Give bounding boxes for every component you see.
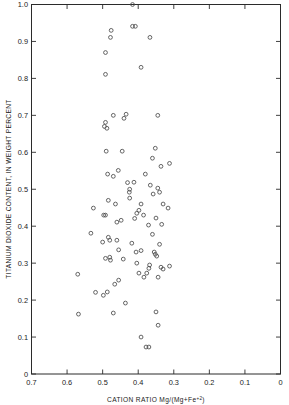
scatter-plot-figure: 0.70.60.50.40.30.20.10 00.10.20.30.40.50… bbox=[0, 0, 289, 405]
y-tick-label: 0.7 bbox=[18, 111, 28, 120]
x-tick-label: 0.5 bbox=[98, 378, 108, 387]
x-tick-label: 0.7 bbox=[26, 378, 36, 387]
x-axis-title: CATION RATIO Mg/(Mg+Fe+2) bbox=[107, 396, 205, 404]
x-tick-label: 0.6 bbox=[62, 378, 72, 387]
y-tick-label: 1.0 bbox=[18, 0, 28, 9]
chart-canvas: 0.70.60.50.40.30.20.10 00.10.20.30.40.50… bbox=[0, 0, 289, 405]
x-tick-label: 0.3 bbox=[169, 378, 179, 387]
x-tick-label: 0.1 bbox=[240, 378, 250, 387]
y-tick-label: 0.9 bbox=[18, 37, 28, 46]
y-tick-label: 0.4 bbox=[18, 222, 28, 231]
y-tick-label: 0.8 bbox=[18, 74, 28, 83]
y-tick-label: 0 bbox=[24, 370, 28, 379]
y-tick-label: 0.1 bbox=[18, 333, 28, 342]
y-tick-label: 0.6 bbox=[18, 148, 28, 157]
x-tick-label: 0.4 bbox=[133, 378, 143, 387]
y-axis-title: TITANIUM DIOXIDE CONTENT, IN WEIGHT PERC… bbox=[5, 99, 12, 278]
chart-background bbox=[0, 0, 289, 405]
x-tick-label: 0 bbox=[278, 378, 282, 387]
y-tick-label: 0.5 bbox=[18, 185, 28, 194]
x-tick-label: 0.2 bbox=[204, 378, 214, 387]
y-tick-label: 0.2 bbox=[18, 296, 28, 305]
y-tick-label: 0.3 bbox=[18, 259, 28, 268]
